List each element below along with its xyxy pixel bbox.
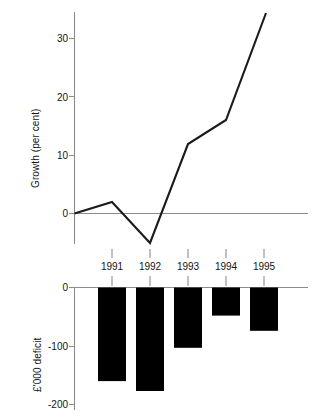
bar-1993 <box>174 288 202 348</box>
bar-1995 <box>250 288 278 331</box>
growth-line-series <box>75 13 267 243</box>
bar-1991 <box>98 288 126 382</box>
bar-1992 <box>136 288 164 392</box>
plot-canvas <box>0 0 319 419</box>
bar-1994 <box>212 288 240 316</box>
chart-figure: Growth (per cent) £'000 deficit 30 20 10… <box>0 0 319 419</box>
